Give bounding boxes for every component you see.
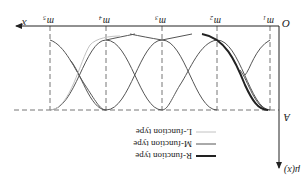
svg-text:m: m [159, 16, 166, 27]
svg-text:3: 3 [155, 15, 159, 21]
tick-m1: m 1 [263, 15, 274, 27]
svg-text:m: m [103, 16, 110, 27]
r-function-curve [202, 34, 268, 110]
y-axis-label: μ(x) [283, 164, 301, 176]
svg-text:1: 1 [263, 15, 266, 21]
legend-label-m: M-function type [133, 139, 192, 149]
x-axis-label: x [21, 18, 27, 30]
svg-text:2: 2 [210, 15, 213, 21]
legend: R-function type M-function type L-functi… [133, 127, 216, 161]
svg-text:m: m [267, 16, 274, 27]
tick-m4: m 4 [99, 15, 110, 27]
tick-m2: m 2 [210, 15, 221, 27]
m-function-curves [50, 34, 270, 110]
tick-labels: m 1 m 2 m 3 m 4 m 5 [43, 15, 274, 27]
svg-text:m: m [214, 16, 221, 27]
svg-text:4: 4 [99, 15, 102, 21]
tick-m5: m 5 [43, 15, 54, 27]
level-a-label: A [283, 112, 291, 123]
svg-text:5: 5 [43, 15, 46, 21]
tick-m3: m 3 [155, 15, 166, 27]
legend-label-l: L-function type [136, 127, 192, 137]
svg-text:m: m [47, 16, 54, 27]
legend-label-r: R-function type [135, 151, 192, 161]
membership-function-diagram: x O A μ(x) m 1 m 2 m 3 m 4 m 5 R-functio… [0, 0, 304, 185]
origin-label: O [282, 18, 290, 30]
